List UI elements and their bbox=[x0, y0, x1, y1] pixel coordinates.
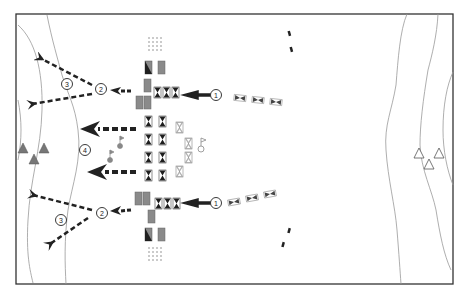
phase-label: 2 bbox=[99, 86, 103, 93]
phase-label: 3 bbox=[65, 81, 69, 88]
phase-label: 3 bbox=[59, 217, 63, 224]
phase-label: 4 bbox=[83, 147, 87, 154]
phase-label: 1 bbox=[214, 200, 218, 207]
tactical-diagram: 1 1 2 3 2 3 4 bbox=[0, 0, 469, 297]
phase-label: 1 bbox=[214, 92, 218, 99]
phase-label: 2 bbox=[100, 210, 104, 217]
